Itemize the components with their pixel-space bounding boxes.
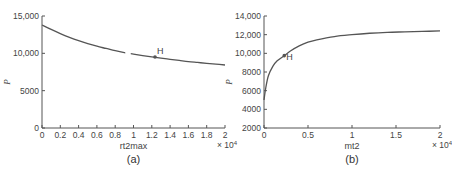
curve-gap [125,16,130,76]
y-axis-label: P [224,79,234,86]
x-tick-label: 2 [223,130,228,140]
x-tick-label: 1 [350,130,355,140]
figure: 00.20.40.60.811.21.41.61.820500010,00015… [0,0,452,173]
x-tick-label: 1.5 [390,130,402,140]
x-multiplier-label: × 104 [432,140,452,150]
y-tick-label: 8000 [242,67,261,77]
h-point-label: H [286,52,293,62]
y-axis-label: P [2,79,12,86]
y-tick-label: 4000 [242,104,261,114]
y-tick-label: 14,000 [235,11,261,21]
x-tick-label: 0.8 [109,130,121,140]
chart-panel-a: 00.20.40.60.811.21.41.61.820500010,00015… [2,11,238,165]
x-tick-label: 2 [438,130,443,140]
x-axis-label: rt2max [120,141,148,151]
data-curve [264,31,440,100]
x-multiplier-label: × 104 [217,140,238,150]
x-tick-label: 1.8 [201,130,213,140]
x-tick-label: 1 [131,130,136,140]
x-tick-label: 1.4 [164,130,176,140]
x-axis-label: mt2 [344,141,359,151]
x-tick-label: 0 [262,130,267,140]
x-tick-label: 1.6 [182,130,194,140]
y-tick-label: 15,000 [13,11,39,21]
x-tick-label: 0.6 [91,130,103,140]
y-tick-label: 6000 [242,86,261,96]
x-tick-label: 0 [40,130,45,140]
panel-label: (b) [345,153,358,165]
data-curve [42,25,225,65]
x-tick-label: 0.2 [54,130,66,140]
y-tick-label: 0 [34,123,39,133]
x-tick-label: 0.5 [302,130,314,140]
y-tick-label: 10,000 [13,48,39,58]
x-tick-label: 1.2 [146,130,158,140]
h-point-label: H [157,46,164,56]
panel-label: (a) [127,153,140,165]
y-tick-label: 10,000 [235,48,261,58]
chart-panel-b: 00.511.52200040006000800010,00012,00014,… [224,11,452,165]
x-tick-label: 0.4 [73,130,85,140]
y-tick-label: 5000 [20,86,39,96]
y-tick-label: 12,000 [235,30,261,40]
y-tick-label: 2000 [242,123,261,133]
